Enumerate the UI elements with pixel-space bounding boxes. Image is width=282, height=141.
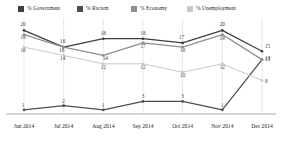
x-axis-tick-label: Oct 2014 bbox=[172, 124, 193, 130]
data-point bbox=[142, 37, 145, 40]
legend-item-label: % Racism bbox=[86, 6, 108, 11]
data-label: 14 bbox=[60, 55, 66, 61]
data-label: 10 bbox=[180, 72, 186, 78]
data-point bbox=[142, 100, 145, 103]
data-label: 20 bbox=[20, 21, 26, 27]
legend-swatch-icon bbox=[131, 6, 137, 12]
legend-swatch-icon bbox=[187, 6, 193, 12]
data-label: 18 bbox=[101, 30, 107, 36]
legend-item[interactable]: % Racism bbox=[77, 6, 108, 12]
data-label: 15 bbox=[265, 43, 271, 49]
data-point bbox=[221, 108, 224, 111]
data-label: 19 bbox=[220, 35, 226, 41]
plot-area: 2016181817201512133113191614171619131614… bbox=[0, 16, 282, 120]
data-point bbox=[261, 58, 264, 61]
data-label: 17 bbox=[179, 34, 185, 40]
series-3-labels: 19161417161913 bbox=[20, 34, 270, 62]
x-axis-tick-label: Dec 2014 bbox=[251, 124, 273, 130]
data-label: 16 bbox=[59, 47, 65, 53]
chart-legend: % Government% Racism% Economy% Unemploym… bbox=[0, 2, 282, 15]
data-point bbox=[261, 79, 264, 82]
data-label: 17 bbox=[140, 43, 146, 49]
series-4-labels: 1614121210128 bbox=[20, 47, 268, 84]
data-label: 18 bbox=[140, 30, 146, 36]
data-point bbox=[23, 108, 26, 111]
data-point bbox=[181, 100, 184, 103]
data-label: 16 bbox=[20, 47, 26, 53]
legend-swatch-icon bbox=[18, 6, 24, 12]
data-label: 16 bbox=[60, 38, 66, 44]
legend-item[interactable]: % Unemployment bbox=[187, 6, 236, 12]
data-point bbox=[181, 42, 184, 45]
data-label: 12 bbox=[101, 64, 107, 70]
data-label: 3 bbox=[142, 93, 145, 99]
data-point bbox=[102, 37, 105, 40]
data-label: 12 bbox=[220, 64, 226, 70]
data-point bbox=[102, 108, 105, 111]
data-label: 12 bbox=[140, 64, 146, 70]
plot-svg: 2016181817201512133113191614171619131614… bbox=[0, 16, 282, 120]
x-axis-tick-label: Sep 2014 bbox=[133, 124, 154, 130]
x-axis: Jun 2014Jul 2014Aug 2014Sep 2014Oct 2014… bbox=[0, 120, 282, 141]
legend-item[interactable]: % Government bbox=[18, 6, 60, 12]
data-label: 8 bbox=[265, 78, 268, 84]
data-point bbox=[62, 104, 65, 107]
data-label: 1 bbox=[102, 102, 105, 108]
x-axis-tick-label: Aug 2014 bbox=[92, 124, 114, 130]
x-axis-tick-label: Jun 2014 bbox=[14, 124, 34, 130]
data-label: 1 bbox=[22, 102, 25, 108]
data-label: 19 bbox=[20, 34, 26, 40]
x-axis-tick-label: Nov 2014 bbox=[211, 124, 233, 130]
data-label: 16 bbox=[180, 47, 186, 53]
data-label: 14 bbox=[103, 55, 109, 61]
data-label: 1 bbox=[221, 102, 224, 108]
legend-item[interactable]: % Economy bbox=[131, 6, 167, 12]
data-label: 20 bbox=[220, 21, 226, 27]
legend-item-label: % Unemployment bbox=[196, 6, 236, 11]
legend-item-label: % Government bbox=[27, 6, 60, 11]
data-label: 13 bbox=[265, 56, 271, 62]
legend-swatch-icon bbox=[77, 6, 83, 12]
data-point bbox=[221, 29, 224, 32]
x-axis-tick-label: Jul 2014 bbox=[54, 124, 73, 130]
line-chart: % Government% Racism% Economy% Unemploym… bbox=[0, 0, 282, 141]
data-point bbox=[23, 29, 26, 32]
series-2-labels: 12133113 bbox=[22, 55, 271, 108]
data-label: 3 bbox=[181, 93, 184, 99]
legend-item-label: % Economy bbox=[140, 6, 167, 11]
data-label: 2 bbox=[62, 98, 65, 104]
data-point bbox=[261, 50, 264, 53]
